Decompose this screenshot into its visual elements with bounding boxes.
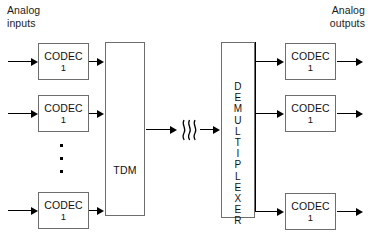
tdm-label: TDM	[106, 164, 144, 176]
demultiplexer-letter: M	[222, 103, 254, 114]
input-arrow-line-1	[8, 61, 31, 62]
input-codec-2[interactable]: CODEC 1	[38, 95, 89, 132]
input-codec-2-number: 1	[61, 114, 66, 126]
codec3-to-tdm-arrowhead	[97, 207, 104, 215]
input-codec-3-number: 1	[61, 211, 66, 223]
output-arrow-line-2	[337, 113, 357, 114]
demultiplexer-box[interactable]: DEMULTIPLEXER	[221, 42, 255, 218]
input-codec-2-name: CODEC	[44, 102, 82, 114]
vertical-ellipsis-icon	[60, 144, 64, 183]
demux-branch-line-2	[255, 113, 277, 114]
output-codec-3[interactable]: CODEC 1	[285, 193, 336, 230]
output-codec-1-number: 1	[308, 62, 313, 74]
input-arrowhead-2	[31, 110, 38, 118]
input-codec-1[interactable]: CODEC 1	[38, 43, 89, 80]
output-codec-1-name: CODEC	[291, 50, 329, 62]
tdm-output-arrowhead	[170, 126, 177, 134]
break-to-demux-line	[200, 129, 214, 130]
demultiplexer-letter: T	[222, 137, 254, 148]
input-codec-1-name: CODEC	[44, 50, 82, 62]
demux-output-bus-line	[255, 42, 256, 212]
input-arrow-line-2	[8, 113, 31, 114]
demux-branch-line-3	[255, 211, 277, 212]
analog-inputs-label: Analog inputs	[7, 4, 40, 29]
demultiplexer-letter: R	[222, 215, 254, 226]
demux-branch-arrowhead-3	[277, 208, 284, 216]
input-codec-1-number: 1	[61, 62, 66, 74]
output-codec-3-name: CODEC	[291, 200, 329, 212]
demultiplexer-letter: P	[222, 159, 254, 170]
tdm-block-diagram: Analog inputs Analog outputs CODEC 1 COD…	[0, 0, 371, 251]
codec3-to-tdm-line	[89, 210, 97, 211]
output-codec-3-number: 1	[308, 212, 313, 224]
input-codec-3-name: CODEC	[44, 199, 82, 211]
output-arrow-line-1	[337, 61, 357, 62]
output-codec-2-name: CODEC	[291, 102, 329, 114]
output-arrowhead-2	[356, 110, 363, 118]
output-codec-2-number: 1	[308, 114, 313, 126]
tdm-multiplexer-box[interactable]: TDM	[105, 42, 145, 216]
input-arrow-line-3	[8, 210, 31, 211]
demultiplexer-letter: E	[222, 92, 254, 103]
demultiplexer-letter: X	[222, 193, 254, 204]
demultiplexer-letter: D	[222, 81, 254, 92]
codec2-to-tdm-line	[89, 113, 97, 114]
demultiplexer-letter: E	[222, 182, 254, 193]
demultiplexer-label: DEMULTIPLEXER	[222, 81, 254, 227]
demultiplexer-letter: L	[222, 171, 254, 182]
output-arrowhead-1	[356, 58, 363, 66]
input-codec-3[interactable]: CODEC 1	[38, 192, 89, 229]
output-codec-1[interactable]: CODEC 1	[285, 43, 336, 80]
codec1-to-tdm-arrowhead	[97, 58, 104, 66]
break-to-demux-arrowhead	[213, 126, 220, 134]
codec1-to-tdm-line	[89, 61, 97, 62]
link-break-icon	[180, 118, 198, 142]
output-arrowhead-3	[356, 208, 363, 216]
output-arrow-line-3	[337, 211, 357, 212]
analog-outputs-label: Analog outputs	[330, 4, 365, 29]
demultiplexer-letter: I	[222, 148, 254, 159]
demultiplexer-letter: L	[222, 126, 254, 137]
tdm-output-line	[146, 129, 170, 130]
input-arrowhead-1	[31, 58, 38, 66]
demultiplexer-letter: U	[222, 115, 254, 126]
output-codec-2[interactable]: CODEC 1	[285, 95, 336, 132]
demux-branch-arrowhead-1	[277, 58, 284, 66]
codec2-to-tdm-arrowhead	[97, 110, 104, 118]
demultiplexer-letter: E	[222, 204, 254, 215]
demux-branch-arrowhead-2	[277, 110, 284, 118]
demux-branch-line-1	[255, 61, 277, 62]
input-arrowhead-3	[31, 207, 38, 215]
